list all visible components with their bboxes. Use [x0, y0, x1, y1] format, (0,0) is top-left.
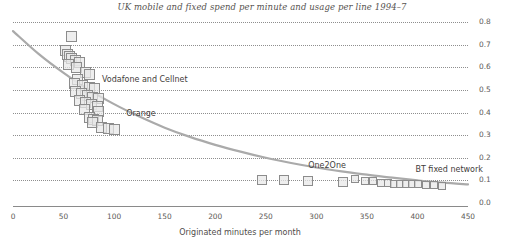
chart-title: UK mobile and fixed spend per minute and…	[0, 2, 524, 12]
data-point-marker	[422, 181, 430, 189]
data-point-marker	[361, 177, 369, 185]
data-point-marker	[338, 177, 348, 187]
data-point-marker	[303, 176, 313, 186]
series-annotation-label: Orange	[126, 109, 156, 118]
data-point-marker	[84, 69, 95, 80]
x-tick-label: 200	[208, 212, 222, 221]
y-tick-label: 0.6	[479, 62, 491, 71]
x-tick-label: 50	[59, 212, 68, 221]
x-axis-line	[13, 206, 468, 207]
data-point-marker	[351, 175, 359, 183]
data-point-marker	[430, 181, 438, 189]
x-tick-label: 450	[461, 212, 475, 221]
data-point-marker	[279, 175, 289, 185]
x-tick-label: 300	[309, 212, 323, 221]
x-axis-label: Originated minutes per month	[0, 228, 480, 237]
data-point-marker	[66, 31, 77, 42]
y-tick-label: 0.2	[479, 153, 491, 162]
x-tick-label: 250	[259, 212, 273, 221]
chart-container: UK mobile and fixed spend per minute and…	[0, 0, 524, 244]
y-tick-label: 0.8	[479, 17, 491, 26]
y-tick-label: 0.7	[479, 40, 491, 49]
y-tick-label: 0.5	[479, 85, 491, 94]
x-tick-label: 100	[107, 212, 121, 221]
data-point-marker	[109, 124, 120, 135]
data-point-marker	[369, 177, 377, 185]
y-tick-label: 0.0	[479, 198, 491, 207]
series-annotation-label: One2One	[308, 161, 346, 170]
x-tick-label: 350	[360, 212, 374, 221]
x-tick-label: 0	[11, 212, 16, 221]
y-tick-label: 0.1	[479, 175, 491, 184]
y-tick-label: 0.4	[479, 108, 491, 117]
series-annotation-label: Vodafone and Cellnet	[102, 75, 188, 84]
series-annotation-label: BT fixed network	[415, 165, 482, 174]
x-tick-label: 150	[158, 212, 172, 221]
data-point-marker	[438, 182, 446, 190]
data-point-marker	[257, 175, 267, 185]
x-tick-label: 400	[410, 212, 424, 221]
y-tick-label: 0.3	[479, 130, 491, 139]
